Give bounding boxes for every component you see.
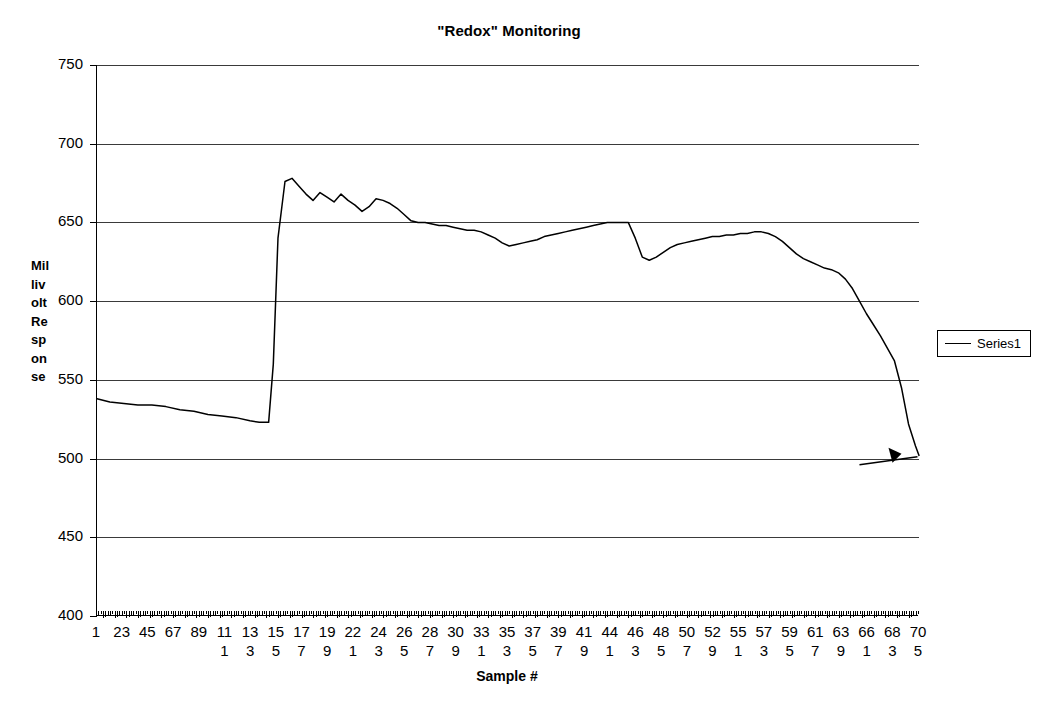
x-axis-tick	[409, 611, 410, 617]
x-axis-tick	[418, 611, 419, 618]
x-axis-tick	[311, 611, 312, 614]
y-axis-tick-label: 600	[29, 291, 83, 308]
x-axis-tick	[722, 611, 723, 618]
x-axis-tick	[834, 611, 835, 615]
x-axis-tick	[661, 611, 662, 614]
x-axis-tick	[556, 611, 557, 614]
x-axis-tick	[813, 611, 814, 614]
x-axis-tick	[860, 611, 861, 614]
x-axis-tick	[337, 611, 338, 618]
x-axis-tick	[827, 611, 828, 618]
x-axis-ticks	[96, 611, 918, 620]
x-axis-tick	[278, 611, 279, 618]
x-axis-tick	[495, 611, 496, 615]
x-axis-tick	[460, 611, 461, 615]
x-axis-tick	[654, 611, 655, 617]
y-axis-tick-label: 400	[29, 606, 83, 623]
x-axis-tick	[911, 611, 912, 617]
x-axis-tick	[853, 611, 854, 617]
x-axis-tick	[666, 611, 667, 617]
x-axis-tick	[444, 611, 445, 617]
x-axis-tick	[635, 611, 636, 615]
x-axis-tick	[175, 611, 176, 617]
x-axis-tick	[841, 611, 842, 617]
x-axis-tick	[811, 611, 812, 615]
x-axis-tick	[727, 611, 728, 616]
x-axis-tick	[808, 611, 809, 616]
x-axis-tick	[143, 611, 144, 616]
x-axis-tick	[313, 611, 314, 618]
x-axis-tick	[783, 611, 784, 617]
x-axis-tick	[551, 611, 552, 616]
x-axis-tick	[365, 611, 366, 616]
x-axis-tick	[276, 611, 277, 614]
x-axis-tick	[558, 611, 559, 618]
x-axis-tick	[778, 611, 779, 614]
x-axis-tick	[780, 611, 781, 618]
chart-title: "Redox" Monitoring	[0, 22, 1018, 39]
x-axis-tick	[259, 611, 260, 616]
x-axis-tick	[411, 611, 412, 616]
x-axis-tick	[178, 611, 179, 616]
y-axis-tick-label: 750	[29, 55, 83, 72]
x-axis-tick	[755, 611, 756, 614]
x-axis-tick	[458, 611, 459, 616]
x-axis-tick	[710, 611, 711, 618]
x-axis-tick	[402, 611, 403, 615]
x-axis-tick	[180, 611, 181, 615]
x-axis-tick	[715, 611, 716, 616]
x-axis-tick	[897, 611, 898, 618]
x-axis-tick	[369, 611, 370, 614]
x-axis-tick	[477, 611, 478, 618]
x-axis-tick	[423, 611, 424, 616]
x-axis-tick	[486, 611, 487, 614]
y-axis-tick	[90, 144, 97, 145]
x-axis-tick	[400, 611, 401, 616]
x-axis-tick	[292, 611, 293, 617]
x-axis-tick	[516, 611, 517, 616]
x-axis-tick	[241, 611, 242, 614]
x-axis-tick	[850, 611, 851, 618]
x-axis-tick	[119, 611, 120, 616]
x-axis-tick	[273, 611, 274, 615]
x-axis-tick	[673, 611, 674, 614]
x-axis-tick	[213, 611, 214, 616]
x-axis-tick	[701, 611, 702, 617]
x-axis-tick	[297, 611, 298, 615]
x-axis-tick	[521, 611, 522, 614]
x-axis-tick	[234, 611, 235, 617]
x-axis-tick	[748, 611, 749, 617]
x-axis-tick	[348, 611, 349, 618]
x-axis-tick	[822, 611, 823, 615]
x-axis-tick	[376, 611, 377, 616]
x-axis-tick	[540, 611, 541, 616]
x-axis-tick	[530, 611, 531, 615]
x-axis-tick	[334, 611, 335, 614]
x-axis-tick	[724, 611, 725, 617]
x-axis-tick	[899, 611, 900, 617]
x-axis-tick	[355, 611, 356, 615]
x-axis-tick	[731, 611, 732, 614]
x-axis-tick	[867, 611, 868, 616]
x-axis-tick	[642, 611, 643, 617]
x-axis-tick	[743, 611, 744, 614]
x-axis-tick	[526, 611, 527, 617]
x-axis-tick	[624, 611, 625, 615]
x-axis-tick	[612, 611, 613, 615]
x-axis-tick	[769, 611, 770, 618]
x-axis-tick	[453, 611, 454, 618]
x-axis-tick	[189, 611, 190, 616]
x-axis-tick	[105, 611, 106, 617]
x-axis-tick	[750, 611, 751, 616]
x-axis-tick	[159, 611, 160, 614]
x-axis-tick	[815, 611, 816, 618]
x-axis-tick	[290, 611, 291, 618]
x-axis-tick	[150, 611, 151, 618]
x-axis-tick	[848, 611, 849, 614]
y-axis-title-line: Mil	[31, 257, 65, 276]
x-axis-tick	[582, 611, 583, 618]
x-axis-tick	[147, 611, 148, 614]
x-axis-tick	[306, 611, 307, 616]
x-axis-tick	[124, 611, 125, 614]
x-axis-tick	[668, 611, 669, 616]
